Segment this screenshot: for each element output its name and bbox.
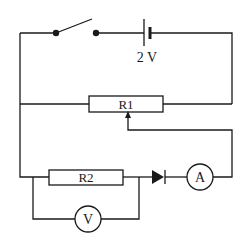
rheostat-r1: R1 (89, 96, 163, 118)
ammeter-label: A (195, 170, 206, 185)
diode (152, 170, 165, 184)
circuit-diagram: 2 V R1 R2 A V (0, 0, 245, 242)
r1-label: R1 (118, 97, 133, 112)
switch-contact-right (93, 30, 99, 36)
wire-top-right (150, 33, 232, 104)
voltmeter: V (75, 206, 101, 232)
wire-left (20, 33, 49, 177)
resistor-r2: R2 (49, 170, 123, 185)
switch[interactable] (53, 19, 99, 36)
wire-wiper (128, 116, 232, 177)
switch-lever (56, 19, 92, 33)
battery-label: 2 V (137, 50, 157, 65)
battery: 2 V (137, 19, 157, 65)
voltmeter-label: V (83, 212, 93, 227)
diode-triangle-icon (152, 170, 164, 184)
ammeter: A (187, 164, 213, 190)
r2-label: R2 (78, 170, 93, 185)
